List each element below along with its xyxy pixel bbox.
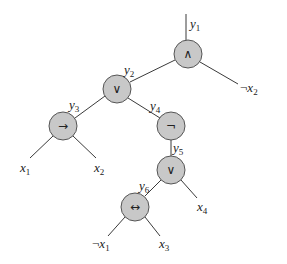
leaf-neg-x1: ¬x1 (92, 236, 110, 253)
gate-implies-y3: → (49, 112, 77, 140)
wire-label-y3: y3 (67, 97, 80, 114)
leaf-x2: x2 (93, 160, 104, 177)
iff-icon: ↔ (130, 200, 140, 214)
gate-or-y5: ∨ (157, 156, 185, 184)
not-icon: ¬ (166, 119, 176, 133)
edge-n5-x4 (181, 180, 197, 198)
circuit-diagram: ∧ ∨ → ¬ ∨ ↔ y1 y2 y3 y4 y5 y6 ¬x2 x1 x2 … (0, 0, 287, 264)
wire-label-y5: y5 (171, 140, 184, 157)
edge-n6-x3 (145, 217, 160, 236)
wire-label-y4: y4 (148, 98, 161, 115)
edge-n1-n2 (130, 60, 175, 82)
edge-n6-negx1 (108, 217, 125, 236)
gate-not-y4: ¬ (157, 112, 185, 140)
or-icon: ∨ (167, 163, 176, 177)
wire-label-y6: y6 (137, 178, 150, 195)
leaf-x1: x1 (19, 160, 30, 177)
edge-n3-x1 (30, 136, 53, 158)
leaf-labels: ¬x2 x1 x2 x4 ¬x1 x3 (19, 80, 258, 253)
wire-label-y1: y1 (188, 16, 200, 33)
implies-icon: → (58, 119, 68, 133)
leaf-neg-x2: ¬x2 (240, 80, 258, 97)
gate-iff-y6: ↔ (121, 193, 149, 221)
or-icon: ∨ (113, 82, 122, 96)
edge-n1-negx2 (200, 62, 238, 84)
leaf-x3: x3 (158, 236, 170, 253)
gate-and-y1: ∧ (174, 40, 202, 68)
wire-label-y2: y2 (122, 62, 134, 79)
and-icon: ∧ (184, 47, 193, 61)
edge-n3-x2 (73, 136, 96, 158)
edge-n2-n3 (75, 96, 105, 118)
gate-or-y2: ∨ (103, 75, 131, 103)
leaf-x4: x4 (196, 199, 208, 216)
